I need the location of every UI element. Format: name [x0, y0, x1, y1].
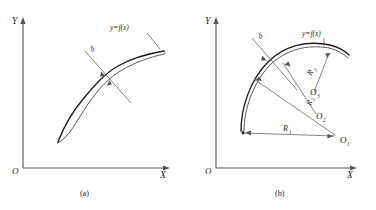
panel-b-origin-label: O: [205, 166, 212, 176]
panel-a-caption: (a): [80, 189, 89, 198]
panel-b-center-3-letter: O: [310, 87, 317, 97]
panel-a-function-label: y=f(x): [109, 23, 129, 32]
panel-b-radius-2-subscript: 2: [309, 97, 316, 102]
panel-a-y-axis-label: Y: [12, 16, 19, 26]
panel-b-y-axis: [213, 17, 218, 168]
figure-root: Y X O δ y=f(x) (a): [0, 0, 376, 210]
two-panel-curve-diagram: Y X O δ y=f(x) (a): [0, 0, 376, 210]
panel-b-center-1-subscript: 1: [347, 141, 350, 147]
panel-a-y-axis: [20, 17, 25, 168]
panel-b-radius-1-letter: R: [282, 124, 288, 133]
panel-b-function-label: y=f(x): [301, 29, 321, 38]
panel-b-radius-2: [254, 76, 335, 135]
panel-b-y-axis-label: Y: [205, 16, 212, 26]
panel-b-center-1-letter: O: [340, 135, 347, 145]
panel-a-delta-label: δ: [88, 44, 96, 54]
panel-a-origin-label: O: [12, 166, 19, 176]
panel-b: Y X O R 1 O 1: [205, 16, 357, 198]
panel-a-function-leader: [147, 33, 160, 49]
panel-b-center-2-label: O 2: [316, 111, 326, 123]
panel-b-center-2-subscript: 2: [323, 117, 326, 123]
panel-b-center-3-label: O 3: [310, 87, 320, 99]
panel-a-x-axis: [23, 165, 170, 170]
panel-b-caption: (b): [275, 189, 285, 198]
panel-b-delta-label: δ: [256, 31, 264, 41]
panel-b-center-3-subscript: 3: [317, 93, 320, 99]
panel-a-x-axis-label: X: [159, 170, 167, 180]
panel-b-radius-1-subscript: 1: [289, 129, 292, 135]
panel-b-x-axis: [216, 165, 357, 170]
panel-b-x-axis-label: X: [346, 170, 354, 180]
panel-a-delta-leader: [85, 51, 131, 103]
panel-b-radius-3-label: R 3: [305, 67, 319, 78]
panel-a: Y X O δ y=f(x) (a): [12, 16, 170, 198]
panel-b-center-1-label: O 1: [340, 135, 350, 147]
panel-b-center-2-letter: O: [316, 111, 323, 121]
panel-b-radius-1-label: R 1: [282, 124, 292, 135]
panel-a-curve-band: [58, 51, 165, 143]
